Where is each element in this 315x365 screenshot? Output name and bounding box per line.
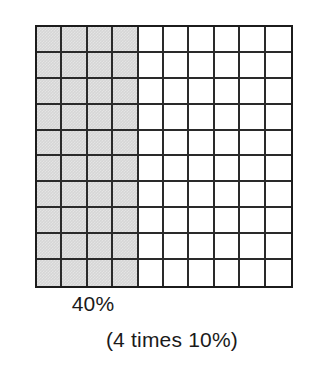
percent-caption: 40% <box>0 291 186 316</box>
grid-cell-shaded <box>88 27 113 53</box>
grid-cell-shaded <box>88 234 113 260</box>
grid-cell-empty <box>215 156 240 182</box>
grid-cell-empty <box>240 182 265 208</box>
grid-cell-empty <box>215 182 240 208</box>
grid-cell-empty <box>240 208 265 234</box>
grid-cell-empty <box>139 79 164 105</box>
grid-cell-empty <box>139 27 164 53</box>
grid-cell-shaded <box>113 131 138 157</box>
grid-cell-empty <box>240 234 265 260</box>
grid-cell-empty <box>164 156 189 182</box>
grid-cell-shaded <box>62 234 87 260</box>
grid-cell-empty <box>266 131 291 157</box>
grid-cell-shaded <box>62 53 87 79</box>
grid-cell-empty <box>189 156 214 182</box>
grid-cell-empty <box>189 53 214 79</box>
grid-cell-empty <box>240 79 265 105</box>
grid-cell-empty <box>240 27 265 53</box>
grid-cell-empty <box>215 27 240 53</box>
grid-cell-shaded <box>113 234 138 260</box>
grid-cell-shaded <box>113 27 138 53</box>
grid-cell-shaded <box>62 260 87 286</box>
grid-cell-empty <box>215 234 240 260</box>
grid-cell-empty <box>164 105 189 131</box>
grid-cell-empty <box>164 208 189 234</box>
grid-cell-empty <box>164 27 189 53</box>
grid-cell-empty <box>164 53 189 79</box>
hundred-square-grid <box>35 25 293 288</box>
grid-cell-empty <box>215 79 240 105</box>
grid-cell-shaded <box>37 260 62 286</box>
grid-cell-empty <box>139 156 164 182</box>
grid-cell-empty <box>139 131 164 157</box>
grid-cell-empty <box>215 208 240 234</box>
grid-cell-empty <box>139 208 164 234</box>
grid-cell-empty <box>189 79 214 105</box>
grid-cell-shaded <box>113 105 138 131</box>
grid-cell-shaded <box>113 79 138 105</box>
grid-cell-empty <box>189 208 214 234</box>
grid-cell-empty <box>240 260 265 286</box>
grid-cell-empty <box>266 53 291 79</box>
grid-cell-empty <box>189 27 214 53</box>
grid-cell-shaded <box>62 208 87 234</box>
grid-cell-empty <box>164 234 189 260</box>
grid-cell-empty <box>266 79 291 105</box>
grid-cell-shaded <box>88 105 113 131</box>
grid-cell-shaded <box>62 79 87 105</box>
percent-area-model-figure <box>35 25 293 288</box>
grid-cell-shaded <box>62 182 87 208</box>
grid-cell-empty <box>266 182 291 208</box>
grid-cell-shaded <box>113 156 138 182</box>
grid-cell-empty <box>139 260 164 286</box>
grid-cell-shaded <box>62 105 87 131</box>
grid-cell-empty <box>189 182 214 208</box>
grid-cell-empty <box>266 156 291 182</box>
grid-cell-shaded <box>88 182 113 208</box>
grid-cell-empty <box>164 182 189 208</box>
grid-cell-empty <box>215 53 240 79</box>
grid-cell-empty <box>215 105 240 131</box>
grid-cell-empty <box>266 27 291 53</box>
grid-cell-empty <box>164 79 189 105</box>
grid-cell-shaded <box>113 53 138 79</box>
grid-cell-empty <box>215 260 240 286</box>
grid-cell-empty <box>189 234 214 260</box>
grid-cell-shaded <box>37 53 62 79</box>
grid-cell-empty <box>266 208 291 234</box>
grid-cell-empty <box>240 131 265 157</box>
grid-cell-shaded <box>37 208 62 234</box>
grid-cell-shaded <box>88 260 113 286</box>
grid-cell-shaded <box>88 53 113 79</box>
grid-cell-empty <box>240 105 265 131</box>
grid-cell-empty <box>240 156 265 182</box>
percent-explanation-caption: (4 times 10%) <box>0 327 315 352</box>
grid-cell-empty <box>240 53 265 79</box>
grid-cell-shaded <box>37 79 62 105</box>
grid-cell-empty <box>189 131 214 157</box>
grid-cell-empty <box>164 131 189 157</box>
grid-cell-shaded <box>37 131 62 157</box>
grid-cell-shaded <box>88 131 113 157</box>
grid-cell-shaded <box>37 182 62 208</box>
grid-cell-shaded <box>62 27 87 53</box>
grid-cell-shaded <box>37 105 62 131</box>
grid-cell-empty <box>139 234 164 260</box>
grid-cell-shaded <box>37 234 62 260</box>
grid-cell-shaded <box>88 156 113 182</box>
grid-cell-empty <box>189 260 214 286</box>
grid-cell-shaded <box>62 156 87 182</box>
grid-cell-shaded <box>113 182 138 208</box>
grid-cell-empty <box>189 105 214 131</box>
grid-cell-shaded <box>37 27 62 53</box>
grid-cell-shaded <box>37 156 62 182</box>
grid-cell-empty <box>139 53 164 79</box>
grid-cell-shaded <box>113 260 138 286</box>
grid-cell-empty <box>266 105 291 131</box>
grid-cell-shaded <box>88 79 113 105</box>
grid-cell-shaded <box>62 131 87 157</box>
grid-cell-shaded <box>113 208 138 234</box>
grid-cell-shaded <box>88 208 113 234</box>
grid-cell-empty <box>266 260 291 286</box>
grid-cell-empty <box>139 105 164 131</box>
